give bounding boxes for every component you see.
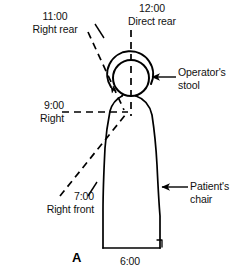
label-clock-1200-position: Direct rear [109, 15, 195, 28]
label-patient-chair-line2: chair [190, 193, 238, 206]
label-clock-0600: 6:00 [110, 255, 150, 268]
label-clock-0900-position: Right [2, 112, 64, 125]
label-patient-chair: Patient's chair [190, 180, 238, 205]
leader-lines [88, 24, 188, 196]
label-clock-1200-time: 12:00 [109, 2, 195, 15]
label-clock-1100: 11:00 Right rear [12, 10, 98, 35]
label-operator-stool-line2: stool [178, 79, 238, 92]
figure-panel-a: 11:00 Right rear 12:00 Direct rear Opera… [0, 0, 239, 271]
label-clock-0700-time: 7:00 [14, 190, 94, 203]
label-operator-stool: Operator's stool [178, 66, 238, 91]
patient-chair-outline [103, 90, 162, 248]
label-clock-1100-time: 11:00 [12, 10, 98, 23]
label-clock-1200: 12:00 Direct rear [109, 2, 195, 27]
label-clock-1100-position: Right rear [12, 23, 98, 36]
operator-position-diagram [0, 0, 239, 271]
label-clock-0900: 9:00 Right [2, 99, 64, 124]
label-patient-chair-line1: Patient's [190, 180, 238, 193]
label-clock-0900-time: 9:00 [2, 99, 64, 112]
label-clock-0600-time: 6:00 [110, 255, 150, 268]
panel-letter: A [72, 250, 81, 265]
clock-position-rays [60, 30, 131, 196]
label-operator-stool-line1: Operator's [178, 66, 238, 79]
ray-0700 [60, 114, 126, 196]
label-clock-0700: 7:00 Right front [14, 190, 94, 215]
label-clock-0700-position: Right front [14, 203, 94, 216]
